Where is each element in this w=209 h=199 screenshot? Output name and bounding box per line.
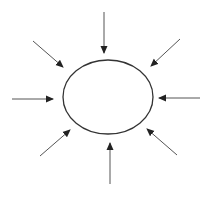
center-ellipse [63,60,153,134]
arrow-top-left-icon [33,41,63,67]
diagram-canvas [0,0,209,199]
diagram-svg [0,0,209,199]
arrow-bottom-left-icon [40,130,70,156]
arrows-group [12,12,200,184]
arrow-top-right-icon [151,39,180,66]
arrow-bottom-right-icon [147,129,177,155]
